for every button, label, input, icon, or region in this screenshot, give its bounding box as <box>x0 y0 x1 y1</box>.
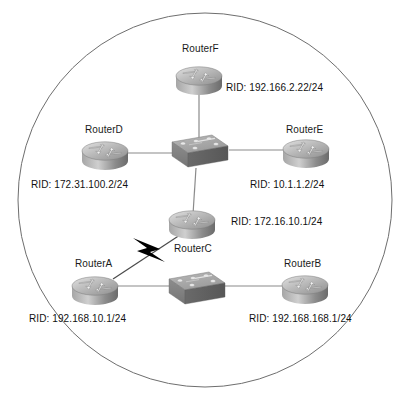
router-icon-routerA[interactable] <box>72 277 118 305</box>
diagram-canvas <box>0 0 409 402</box>
device-rid-routerD: RID: 172.31.100.2/24 <box>31 179 128 190</box>
link-switch1-routerC <box>193 168 196 214</box>
device-label-routerE: RouterE <box>286 124 323 135</box>
device-label-routerC: RouterC <box>174 243 212 254</box>
network-diagram: RouterF RID: 192.166.2.22/24 RouterD RID… <box>0 0 409 402</box>
device-rid-routerA: RID: 192.168.10.1/24 <box>29 313 126 324</box>
router-icon-routerF[interactable] <box>176 67 222 95</box>
device-label-routerD: RouterD <box>85 124 123 135</box>
device-label-routerA: RouterA <box>75 258 112 269</box>
router-icon-routerC[interactable] <box>169 211 215 239</box>
switch-icon-lower[interactable] <box>169 272 225 304</box>
device-rid-routerF: RID: 192.166.2.22/24 <box>226 82 323 93</box>
device-label-routerB: RouterB <box>284 258 321 269</box>
serial-lightning-bolt-icon <box>133 238 165 262</box>
device-label-routerF: RouterF <box>182 43 219 54</box>
router-icon-routerD[interactable] <box>82 142 128 170</box>
link-routerA-routerC-serial <box>113 233 183 279</box>
device-rid-routerE: RID: 10.1.1.2/24 <box>250 179 324 190</box>
router-icon-routerB[interactable] <box>282 276 328 304</box>
device-rid-routerB: RID: 192.168.168.1/24 <box>249 313 352 324</box>
switch-icon-upper[interactable] <box>172 135 228 167</box>
device-rid-routerC: RID: 172.16.10.1/24 <box>231 216 322 227</box>
router-icon-routerE[interactable] <box>283 140 329 168</box>
